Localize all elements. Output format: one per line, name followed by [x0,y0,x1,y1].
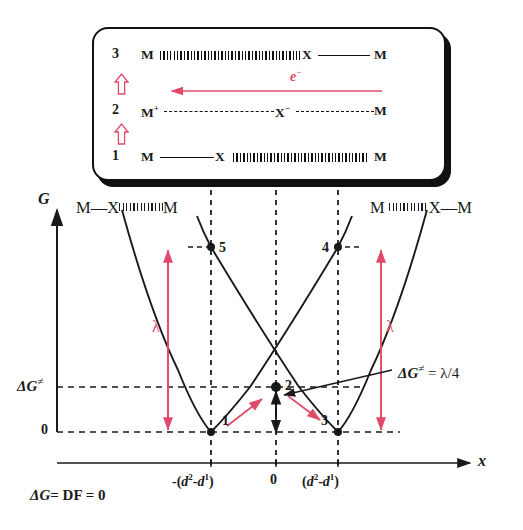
baseline-note-symbol: ΔG [30,487,50,503]
point-1-label: 1 [222,413,229,429]
x-axis-label: x [478,452,486,470]
energy-diagram-plot [0,180,523,530]
barrier-annotation: ΔG≠ = λ/4 [398,362,459,382]
barrier-annotation-symbol: ΔG [398,365,418,381]
lambda-label-left: λ [152,318,160,336]
curve-label-product-head: M [370,198,385,217]
electron-label: e− [290,67,302,85]
point-3-dot [334,428,342,436]
curve-label-product-tail: X—M [429,198,472,217]
electron-charge: − [296,67,301,77]
x-tick-label-left: -(d2-d1) [172,472,214,490]
curve-label-reactant: M—XM [76,198,178,218]
y-tick-label-zero: 0 [41,422,48,438]
hatched-bond-glyph-right [389,203,429,211]
curve-label-reactant-head: M—X [76,198,119,217]
x-tick-label-mid: 0 [270,472,277,488]
point-4-dot [334,243,342,251]
figure-canvas: 3 M X M 2 M+ X− M 1 M X M [0,0,523,530]
baseline-note: ΔG= DF = 0 [30,487,106,504]
point-5-label: 5 [219,240,226,256]
barrier-annotation-value: = λ/4 [428,365,459,381]
reaction-arrow-uphill [227,399,262,426]
lambda-label-right: λ [386,318,394,336]
baseline-note-rest: = DF = 0 [50,487,105,503]
x-tick-label-right: (d2-d1) [302,472,339,490]
point-4-label: 4 [322,240,329,256]
point-2-dot [271,382,281,392]
curve-label-reactant-tail: M [163,198,178,217]
hatched-bond-glyph-left [119,203,163,211]
y-tick-barrier-symbol: ΔG [17,378,37,394]
barrier-annotation-superscript: ≠ [418,362,424,374]
point-1-dot [207,428,215,436]
barrier-annotation-leader [284,370,392,395]
point-2-label: 2 [285,378,292,394]
y-tick-barrier-superscript: ≠ [37,375,43,387]
mechanism-inset-box: 3 M X M 2 M+ X− M 1 M X M [92,27,446,181]
curve-label-product: M X—M [370,198,472,218]
electron-transfer-arrow-icon [94,29,444,179]
point-5-dot [207,243,215,251]
y-tick-label-barrier: ΔG≠ [17,375,43,395]
y-axis-label: G [38,190,50,208]
point-3-label: 3 [321,413,328,429]
